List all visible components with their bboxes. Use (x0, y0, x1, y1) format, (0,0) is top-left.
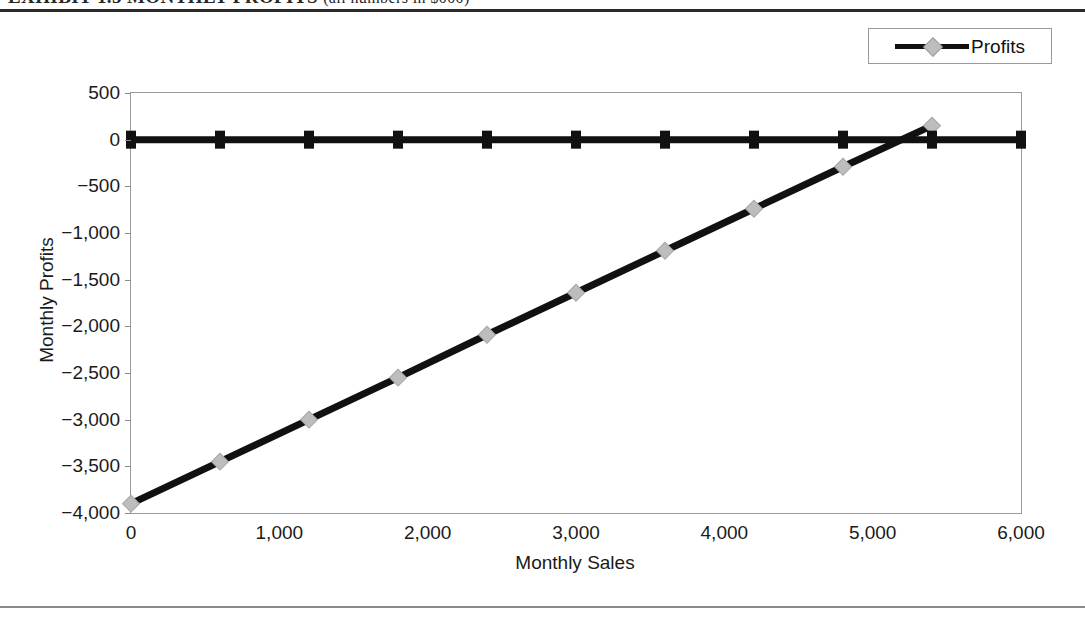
x-axis-title: Monthly Sales (515, 552, 634, 574)
data-point-marker (304, 131, 314, 149)
y-tick-mark (125, 140, 131, 141)
y-tick-mark (125, 233, 131, 234)
y-tick-mark (125, 513, 131, 514)
x-axis-tick-label: 3,000 (552, 522, 600, 544)
data-point-marker (393, 131, 403, 149)
exhibit-title-strip: EXHIBIT 1.5 MONTHLY PROFITS (all numbers… (0, 0, 1085, 9)
y-tick-mark (125, 280, 131, 281)
data-point-marker (215, 131, 225, 149)
plot-inner: 5000−500−1,000−1,500−2,000−2,500−3,000−3… (131, 93, 1021, 513)
x-axis-tick-label: 5,000 (849, 522, 897, 544)
legend-diamond-marker-icon (923, 37, 943, 57)
data-point-marker (749, 131, 759, 149)
plot-area: 5000−500−1,000−1,500−2,000−2,500−3,000−3… (130, 92, 1022, 514)
exhibit-title: EXHIBIT 1.5 MONTHLY PROFITS (all numbers… (8, 0, 470, 8)
y-axis-tick-label: −3,000 (61, 409, 120, 431)
y-tick-mark (125, 420, 131, 421)
series-layer (131, 93, 1021, 513)
y-tick-mark (125, 466, 131, 467)
footer-rule (0, 606, 1085, 608)
data-point-marker (1016, 131, 1026, 149)
data-point-marker (482, 131, 492, 149)
y-axis-title: Monthly Profits (36, 237, 58, 363)
x-axis-tick-label: 0 (126, 522, 137, 544)
y-axis-tick-label: −4,000 (61, 502, 120, 524)
y-tick-mark (125, 93, 131, 94)
y-axis-tick-label: −2,000 (61, 315, 120, 337)
x-axis-tick-label: 4,000 (701, 522, 749, 544)
legend-label-profits: Profits (971, 37, 1025, 56)
exhibit-title-name: MONTHLY PROFITS (127, 0, 318, 7)
y-axis-tick-label: −1,000 (61, 222, 120, 244)
chart-legend: Profits (868, 28, 1052, 64)
y-axis-tick-label: −2,500 (61, 362, 120, 384)
y-axis-tick-label: −500 (77, 175, 120, 197)
y-axis-tick-label: 0 (109, 129, 120, 151)
y-tick-mark (125, 373, 131, 374)
data-point-marker (838, 131, 848, 149)
data-point-marker (660, 131, 670, 149)
legend-swatch-profits (895, 39, 969, 53)
x-axis-tick-label: 1,000 (256, 522, 304, 544)
y-axis-tick-label: −1,500 (61, 269, 120, 291)
figure-page: EXHIBIT 1.5 MONTHLY PROFITS (all numbers… (0, 0, 1085, 621)
y-axis-tick-label: 500 (88, 82, 120, 104)
exhibit-title-note: (all numbers in $000) (323, 0, 470, 6)
exhibit-title-number: EXHIBIT 1.5 (8, 0, 122, 7)
y-tick-mark (125, 326, 131, 327)
data-point-marker (927, 131, 937, 149)
y-axis-tick-label: −3,500 (61, 455, 120, 477)
x-axis-tick-label: 6,000 (997, 522, 1045, 544)
data-point-marker (571, 131, 581, 149)
header-rule (0, 9, 1085, 12)
y-tick-mark (125, 186, 131, 187)
series-line-profits (131, 126, 932, 504)
x-axis-tick-label: 2,000 (404, 522, 452, 544)
